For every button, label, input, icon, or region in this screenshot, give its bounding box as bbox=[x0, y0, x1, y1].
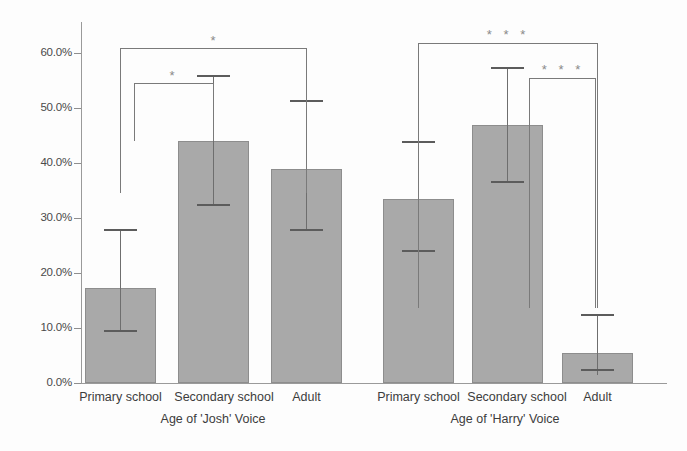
group-label-josh: Age of 'Josh' Voice bbox=[93, 413, 333, 426]
x-axis-line bbox=[81, 383, 667, 384]
error-bar-cap-lower-josh-secondary-school bbox=[197, 204, 230, 206]
y-tick-mark-30 bbox=[74, 218, 81, 219]
y-tick-mark-10 bbox=[74, 328, 81, 329]
error-bar-cap-upper-josh-primary-school bbox=[104, 229, 137, 231]
y-tick-mark-40 bbox=[74, 163, 81, 164]
y-tick-label-60: 60.0% bbox=[4, 47, 72, 59]
significance-stars-josh-primary-adult: * bbox=[155, 34, 275, 47]
error-bar-cap-lower-josh-adult bbox=[290, 229, 323, 231]
y-tick-mark-50 bbox=[74, 108, 81, 109]
bar-chart: 60.0% 50.0% 40.0% 30.0% 20.0% 10.0% 0.0% bbox=[0, 0, 687, 451]
significance-bracket-josh-primary-secondary bbox=[134, 83, 214, 141]
y-tick-label-30: 30.0% bbox=[4, 212, 72, 224]
y-axis-line bbox=[81, 22, 82, 384]
significance-stars-josh-primary-secondary: * bbox=[114, 69, 234, 82]
x-tick-label-josh-adult: Adult bbox=[269, 391, 344, 404]
error-bar-stem-josh-primary-school bbox=[120, 229, 121, 331]
error-bar-cap-lower-harry-adult bbox=[581, 369, 614, 371]
y-tick-label-40: 40.0% bbox=[4, 157, 72, 169]
y-tick-label-20: 20.0% bbox=[4, 267, 72, 279]
x-tick-label-harry-adult: Adult bbox=[560, 391, 635, 404]
y-tick-label-10: 10.0% bbox=[4, 322, 72, 334]
y-tick-mark-60 bbox=[74, 53, 81, 54]
y-tick-label-0: 0.0% bbox=[4, 377, 72, 389]
significance-bracket-harry-secondary-adult bbox=[529, 78, 596, 308]
y-tick-mark-0 bbox=[74, 383, 81, 384]
error-bar-cap-upper-harry-adult bbox=[581, 314, 614, 316]
y-tick-label-50: 50.0% bbox=[4, 102, 72, 114]
significance-stars-harry-primary-adult: * * * bbox=[448, 28, 568, 41]
group-label-harry: Age of 'Harry' Voice bbox=[385, 413, 625, 426]
y-tick-mark-20 bbox=[74, 273, 81, 274]
error-bar-cap-lower-josh-primary-school bbox=[104, 330, 137, 332]
error-bar-stem-harry-adult bbox=[597, 314, 598, 375]
significance-stars-harry-secondary-adult: * * * bbox=[503, 63, 623, 76]
